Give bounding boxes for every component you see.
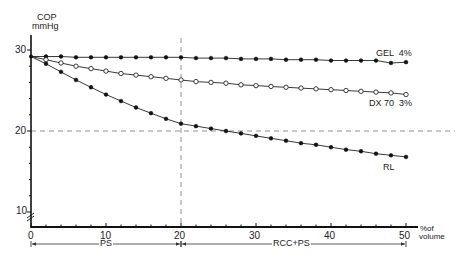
x-tick-30: 30 — [249, 231, 260, 240]
data-point — [119, 71, 123, 75]
data-point — [89, 66, 93, 70]
phase-label-ps: PS — [99, 239, 113, 248]
axes — [27, 35, 418, 228]
data-point — [119, 55, 123, 59]
data-series — [29, 54, 408, 158]
data-point — [209, 56, 213, 60]
data-point — [359, 89, 363, 93]
data-point — [359, 149, 363, 153]
y-axis-label-unit: mmHg — [32, 22, 59, 31]
data-point — [299, 86, 303, 90]
data-point — [194, 124, 198, 128]
data-point — [299, 141, 303, 145]
x-axis-label-volume: volume — [419, 232, 445, 241]
data-point — [239, 57, 243, 61]
x-tick-0: 0 — [28, 231, 34, 240]
series-label-gel: GEL 4% — [376, 49, 412, 58]
data-point — [89, 55, 93, 59]
data-point — [314, 87, 318, 91]
y-tick-30: 30 — [15, 45, 26, 54]
series-line-1 — [31, 57, 406, 95]
data-point — [284, 58, 288, 62]
data-point — [74, 78, 78, 82]
data-point — [74, 64, 78, 68]
data-point — [134, 73, 138, 77]
data-point — [359, 59, 363, 63]
data-point — [374, 152, 378, 156]
data-point — [269, 136, 273, 140]
data-point — [179, 55, 183, 59]
data-point — [314, 58, 318, 62]
data-point — [374, 90, 378, 94]
series-line-0 — [31, 57, 406, 64]
data-point — [239, 132, 243, 136]
data-point — [134, 106, 138, 110]
data-point — [59, 55, 63, 59]
arrow-right-icon — [401, 242, 405, 246]
data-point — [224, 129, 228, 133]
data-point — [239, 83, 243, 87]
data-point — [44, 62, 48, 66]
data-point — [179, 122, 183, 126]
data-point — [254, 134, 258, 138]
origin-point — [29, 54, 33, 58]
data-point — [179, 78, 183, 82]
data-point — [314, 143, 318, 147]
data-point — [104, 55, 108, 59]
data-point — [164, 76, 168, 80]
data-point — [299, 58, 303, 62]
data-point — [59, 70, 63, 74]
data-point — [344, 59, 348, 63]
data-point — [44, 58, 48, 62]
data-point — [404, 92, 408, 96]
data-point — [209, 127, 213, 131]
data-point — [389, 91, 393, 95]
data-point — [89, 85, 93, 89]
data-point — [149, 75, 153, 79]
data-point — [254, 57, 258, 61]
data-point — [389, 153, 393, 157]
y-tick-10: 10 — [16, 206, 27, 215]
y-tick-20: 20 — [15, 126, 26, 135]
data-point — [194, 56, 198, 60]
data-point — [344, 88, 348, 92]
data-point — [149, 55, 153, 59]
data-point — [404, 155, 408, 159]
reference-lines — [31, 38, 455, 227]
data-point — [74, 55, 78, 59]
data-point — [104, 93, 108, 97]
phase-label-rcc-ps: RCC+PS — [272, 239, 311, 248]
data-point — [194, 79, 198, 83]
phase-annotations — [31, 241, 406, 247]
data-point — [329, 87, 333, 91]
data-point — [149, 111, 153, 115]
x-tick-50: 50 — [399, 231, 410, 240]
arrow-left-icon — [182, 242, 186, 246]
data-point — [104, 69, 108, 73]
data-point — [284, 85, 288, 89]
arrow-left-icon — [32, 242, 36, 246]
data-point — [344, 148, 348, 152]
data-point — [269, 57, 273, 61]
data-point — [284, 139, 288, 143]
data-point — [269, 84, 273, 88]
data-point — [119, 99, 123, 103]
x-tick-40: 40 — [324, 231, 335, 240]
data-point — [329, 59, 333, 63]
data-point — [374, 59, 378, 63]
data-point — [209, 80, 213, 84]
cop-line-chart — [0, 0, 461, 259]
arrow-right-icon — [176, 242, 180, 246]
data-point — [164, 117, 168, 121]
data-point — [134, 55, 138, 59]
data-point — [254, 83, 258, 87]
data-point — [224, 81, 228, 85]
data-point — [224, 56, 228, 60]
data-point — [404, 60, 408, 64]
data-point — [59, 61, 63, 65]
data-point — [329, 145, 333, 149]
series-label-dx70: DX 70 3% — [369, 99, 412, 108]
series-line-2 — [31, 57, 406, 157]
data-point — [164, 55, 168, 59]
series-label-rl: RL — [383, 163, 395, 172]
